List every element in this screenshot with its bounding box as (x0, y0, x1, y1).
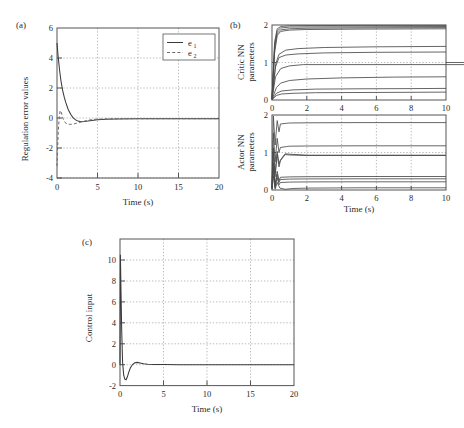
panel-b-actor-ytick-0: 0 (264, 185, 268, 195)
panel-c-xlabel: Time (s) (192, 404, 222, 414)
panel-b-tag: (b) (230, 20, 241, 30)
panel-c-ytick-4: 6 (112, 297, 116, 307)
panel-a-xtick-0: 0 (55, 182, 59, 192)
panel-b-actor-xtick-3: 6 (374, 193, 378, 203)
panel-c-ytick-0: -2 (109, 381, 116, 391)
panel-a-tag: (a) (16, 20, 26, 30)
panel-b-actor-xtick-4: 8 (409, 193, 413, 203)
panel-c-ytick-1: 0 (112, 360, 116, 370)
figure-container: (a) Regulation error values (0, 0, 464, 428)
panel-c-xtick-2: 10 (203, 389, 212, 399)
panel-a-legend: e 1 e 2 (163, 34, 215, 60)
panel-c-ytick-6: 10 (108, 255, 117, 265)
panel-c-xtick-3: 15 (246, 389, 255, 399)
panel-c-xtick-1: 5 (161, 389, 165, 399)
panel-b-actor-ytick-2: 2 (264, 110, 268, 120)
panel-a-ytick-0: -4 (46, 173, 54, 183)
panel-a-xlabel: Time (s) (123, 197, 153, 207)
legend-sub-e2: 2 (194, 53, 197, 59)
panel-c-ytick-5: 8 (112, 276, 116, 286)
legend-label-e1: e (188, 38, 192, 48)
legend-sub-e1: 1 (194, 43, 197, 49)
panel-a-ytick-2: 0 (49, 113, 53, 123)
panel-b-critic-ticks (272, 63, 411, 101)
panel-c-ytick-2: 2 (112, 339, 116, 349)
panel-b-actor-plot: 0 1 2 0 2 4 6 8 10 Time (s) (264, 110, 451, 214)
panel-c-plot: -2 0 2 4 6 8 10 0 5 10 15 20 Time (s) (108, 239, 299, 414)
panel-b-ylabel-line1: Critic NN (236, 44, 246, 80)
panel-b-actor-xtick-2: 4 (339, 193, 344, 203)
panel-a-plot: e 1 e 2 -4 -2 0 2 4 6 0 5 10 15 20 Time … (46, 23, 223, 207)
panel-a-xtick-4: 20 (215, 182, 224, 192)
panel-c-ytick-3: 4 (112, 318, 117, 328)
panel-b-ytick-2: 2 (264, 20, 268, 30)
panel-c-ylabel: Control input (84, 293, 94, 342)
legend-label-e2: e (188, 48, 192, 58)
panel-c-xtick-0: 0 (118, 389, 122, 399)
panel-a-xtick-1: 5 (95, 182, 99, 192)
panel-b-ytick-0: 0 (264, 95, 268, 105)
panel-b-ylabel-line2: parameters (246, 42, 256, 82)
panel-a: (a) Regulation error values (8, 14, 230, 219)
panel-a-ylabel: Regulation error values (20, 76, 30, 161)
panel-a-xtick-3: 15 (174, 182, 183, 192)
panel-a-ytick-1: -2 (46, 143, 53, 153)
panel-b-actor: Actor NN parameters (228, 108, 460, 208)
panel-a-xtick-2: 10 (134, 182, 143, 192)
panel-c-xtick-4: 20 (290, 389, 299, 399)
panel-b-ytick-1: 1 (264, 58, 268, 68)
panel-c: (c) Control input (68, 228, 358, 423)
panel-a-ytick-4: 4 (49, 53, 54, 63)
panel-b-actor-ylabel-line1: Actor NN (236, 134, 246, 170)
panel-b-actor-ticks (272, 153, 411, 191)
panel-a-ytick-5: 6 (49, 23, 53, 33)
panel-c-tag: (c) (82, 237, 92, 247)
panel-b-critic-plot: 0 1 2 0 2 4 6 8 10 (264, 20, 464, 113)
panel-b-actor-xtick-1: 2 (305, 193, 309, 203)
panel-b-critic: (b) Critic NN parameters (228, 14, 460, 114)
panel-b-actor-ytick-1: 1 (264, 148, 268, 158)
curve-e2 (57, 111, 219, 167)
panel-b-actor-xtick-0: 0 (270, 193, 274, 203)
panel-b-actor-xlabel: Time (s) (344, 204, 374, 214)
panel-a-ytick-3: 2 (49, 83, 53, 93)
panel-b-actor-ylabel-line2: parameters (246, 132, 256, 172)
panel-b-actor-xtick-5: 10 (442, 193, 451, 203)
